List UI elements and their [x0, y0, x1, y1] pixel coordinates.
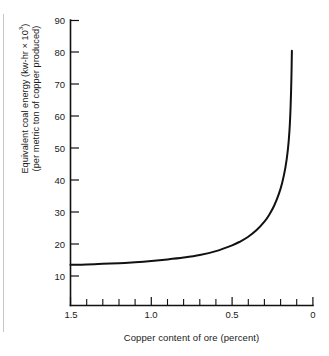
- y-tick-label: 80: [54, 47, 65, 58]
- y-axis-title-line1-suffix: ): [20, 24, 30, 27]
- y-axis-ticks: [71, 21, 80, 277]
- y-axis-title-line1-prefix: Equivalent coal energy (kw-hr × 10: [20, 30, 30, 173]
- x-axis-title: Copper content of ore (percent): [70, 332, 313, 343]
- y-tick-label: 60: [54, 111, 65, 122]
- x-axis-ticks: [71, 297, 313, 306]
- y-tick-label: 90: [54, 15, 65, 26]
- y-axis-title-exponent: 3: [17, 27, 24, 31]
- y-axis-title-line1: Equivalent coal energy (kw-hr × 103): [15, 0, 31, 207]
- y-tick-labels: 90 80 70 60 50 40 30 20 10: [54, 15, 65, 282]
- x-tick-label: 1.5: [64, 309, 77, 320]
- figure-canvas: 90 80 70 60 50 40 30 20 10: [0, 0, 329, 356]
- y-tick-label: 70: [54, 79, 65, 90]
- y-axis-title-line2: (per metric ton of copper produced): [31, 0, 43, 207]
- y-tick-label: 50: [54, 143, 65, 154]
- x-tick-label: 0: [310, 309, 315, 320]
- y-tick-label: 40: [54, 175, 65, 186]
- x-tick-label: 0.5: [225, 309, 238, 320]
- chart-plot-area: 90 80 70 60 50 40 30 20 10: [0, 0, 329, 356]
- y-axis-title: Equivalent coal energy (kw-hr × 103) (pe…: [15, 0, 42, 207]
- y-tick-label: 10: [54, 271, 65, 282]
- x-tick-labels: 1.5 1.0 0.5 0: [64, 309, 315, 320]
- y-tick-label: 20: [54, 239, 65, 250]
- data-curve-equivalent-coal-energy: [71, 51, 292, 265]
- y-tick-label: 30: [54, 207, 65, 218]
- x-tick-label: 1.0: [144, 309, 157, 320]
